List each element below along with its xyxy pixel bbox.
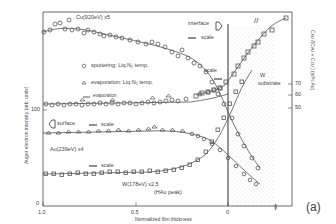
r-tick-70: 70 [295,81,301,87]
legend-triangle-icon [82,81,86,84]
label-scale-4: scale [101,163,114,169]
x-tick-1: 1.0 [38,210,46,216]
surface-arrow-icon [49,120,55,128]
panel-label: (a) [306,200,321,214]
label-w-substrate-2: substrate [258,81,281,87]
label-au: Au(239eV) x4 [50,147,84,153]
r-tick-50: 50 [295,105,301,111]
label-surface: surface [57,121,75,127]
y-tick-0: 0 [36,201,39,207]
x-tick-05: 0.5 [131,210,139,216]
svg-text://: // [254,16,259,25]
legend-circle-icon [82,64,86,68]
x-tick-0: 0 [226,210,229,216]
label-cu: Cu(920eV) x5 [76,15,110,21]
label-w: W(178eV) x2.5 [122,182,159,188]
x-axis-label: Normalized film thickness [135,217,192,222]
y-axis-label-right: Cᴀᴜ /(Cᴀᴜ + Cᴄᴜ ) (at% Au) [310,30,316,90]
legend-sputtering: sputtering: Liq.N₂ temp. [91,63,148,69]
y-axis-label-left: Auger electron intensity (arb. units) [23,86,29,164]
series-evaporation-reference [43,86,228,107]
label-scale-3: scale [101,122,114,128]
r-tick-60: 60 [295,92,301,98]
svg-text:≬: ≬ [274,203,277,210]
y-tick-100: 100 [31,107,40,113]
label-w-substrate-1: W [260,73,265,79]
interface-arrow-icon [216,22,222,30]
label-w-sub: (HAu peak) [154,190,182,196]
legend-evaporation: evaporation [93,94,117,99]
label-scale-1: scale [201,35,214,41]
label-scale-2: scale [204,68,217,74]
legend-evaporation-ln2: evaporation: Liq.N₂ temp. [91,80,153,86]
label-interface: interface [188,21,209,27]
